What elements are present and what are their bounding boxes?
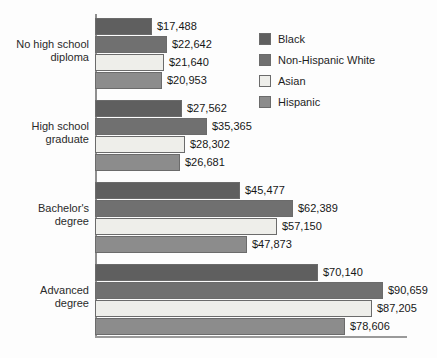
table-row: $45,477	[95, 182, 437, 199]
bar-black[interactable]	[95, 100, 182, 117]
bar-value-label: $27,562	[187, 101, 227, 116]
legend-label: Asian	[278, 75, 306, 88]
bar-value-label: $17,488	[157, 19, 197, 34]
bar-value-label: $26,681	[185, 155, 225, 170]
bar-black[interactable]	[95, 182, 240, 199]
bar-value-label: $87,205	[377, 301, 417, 316]
bar-asian[interactable]	[95, 136, 185, 153]
bar-black[interactable]	[95, 18, 152, 35]
bar-value-label: $21,640	[169, 55, 209, 70]
legend-label: Non-Hispanic White	[278, 54, 375, 67]
table-row: $35,365	[95, 118, 437, 135]
bar-value-label: $70,140	[323, 265, 363, 280]
bar-value-label: $20,953	[167, 73, 207, 88]
legend-item-asian[interactable]: Asian	[259, 72, 375, 90]
legend-swatch-icon	[259, 96, 271, 108]
bar-non-hispanic-white[interactable]	[95, 118, 207, 135]
table-row: $28,302	[95, 136, 437, 153]
bar-value-label: $22,642	[172, 37, 212, 52]
bar-asian[interactable]	[95, 54, 164, 71]
legend-label: Hispanic	[278, 96, 320, 109]
bar-value-label: $35,365	[212, 119, 252, 134]
bar-value-label: $57,150	[282, 219, 322, 234]
table-row: $87,205	[95, 300, 437, 317]
bar-value-label: $45,477	[245, 183, 285, 198]
chart-legend: Black Non-Hispanic White Asian Hispanic	[259, 30, 375, 114]
bar-value-label: $78,606	[350, 319, 390, 334]
legend-item-non-hispanic-white[interactable]: Non-Hispanic White	[259, 51, 375, 69]
legend-swatch-icon	[259, 75, 271, 87]
bar-black[interactable]	[95, 264, 318, 281]
bar-non-hispanic-white[interactable]	[95, 282, 383, 299]
bar-value-label: $28,302	[190, 137, 230, 152]
bar-value-label: $47,873	[252, 237, 292, 252]
bar-asian[interactable]	[95, 300, 372, 317]
bar-group-advanced-degree: Advanced degree $70,140 $90,659 $87,205 …	[95, 264, 437, 336]
table-row: $47,873	[95, 236, 437, 253]
category-label-bachelors-degree: Bachelor's degree	[0, 202, 89, 228]
table-row: $62,389	[95, 200, 437, 217]
category-label-line2: graduate	[0, 133, 89, 146]
category-label-line1: No high school	[0, 38, 89, 51]
category-label-line2: degree	[0, 297, 89, 310]
category-label-high-school-graduate: High school graduate	[0, 120, 89, 146]
bar-value-label: $90,659	[388, 283, 428, 298]
legend-swatch-icon	[259, 33, 271, 45]
table-row: $90,659	[95, 282, 437, 299]
category-label-line2: degree	[0, 215, 89, 228]
bar-hispanic[interactable]	[95, 154, 180, 171]
legend-item-hispanic[interactable]: Hispanic	[259, 93, 375, 111]
table-row: $70,140	[95, 264, 437, 281]
category-label-no-high-school-diploma: No high school diploma	[0, 38, 89, 64]
x-axis-line	[95, 336, 407, 338]
bar-hispanic[interactable]	[95, 236, 247, 253]
category-label-advanced-degree: Advanced degree	[0, 284, 89, 310]
table-row: $78,606	[95, 318, 437, 335]
category-label-line1: Advanced	[0, 284, 89, 297]
legend-label: Black	[278, 33, 305, 46]
bar-asian[interactable]	[95, 218, 277, 235]
category-label-line1: Bachelor's	[0, 202, 89, 215]
table-row: $57,150	[95, 218, 437, 235]
legend-item-black[interactable]: Black	[259, 30, 375, 48]
category-label-line1: High school	[0, 120, 89, 133]
table-row: $26,681	[95, 154, 437, 171]
bar-hispanic[interactable]	[95, 72, 162, 89]
bar-non-hispanic-white[interactable]	[95, 200, 293, 217]
bar-non-hispanic-white[interactable]	[95, 36, 167, 53]
bar-value-label: $62,389	[298, 201, 338, 216]
category-label-line2: diploma	[0, 51, 89, 64]
bar-chart: No high school diploma $17,488 $22,642 $…	[0, 0, 437, 358]
bar-hispanic[interactable]	[95, 318, 345, 335]
bar-group-bachelors-degree: Bachelor's degree $45,477 $62,389 $57,15…	[95, 182, 437, 254]
legend-swatch-icon	[259, 54, 271, 66]
